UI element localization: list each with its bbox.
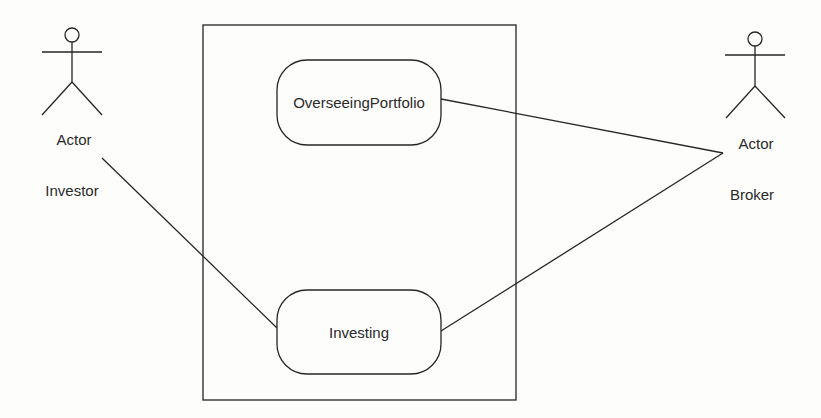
stick-figure-icon <box>42 28 102 115</box>
stick-figure-icon <box>725 32 785 118</box>
association-broker-investing <box>441 153 723 331</box>
actor-name-label: Investor <box>45 182 98 199</box>
actor-broker[interactable]: Actor Broker <box>725 32 785 203</box>
association-investor-investing <box>102 158 277 328</box>
use-case-diagram: OverseeingPortfolio Investing Actor Inve… <box>0 0 821 418</box>
actor-stereotype-label: Actor <box>56 131 91 148</box>
actor-name-label: Broker <box>730 186 774 203</box>
actor-stereotype-label: Actor <box>738 135 773 152</box>
use-case-label: OverseeingPortfolio <box>293 94 425 111</box>
use-case-overseeing-portfolio[interactable]: OverseeingPortfolio <box>277 60 441 145</box>
association-broker-overseeing <box>441 99 723 153</box>
use-case-investing[interactable]: Investing <box>277 290 441 374</box>
use-case-label: Investing <box>329 324 389 341</box>
actor-investor[interactable]: Actor Investor <box>42 28 102 199</box>
